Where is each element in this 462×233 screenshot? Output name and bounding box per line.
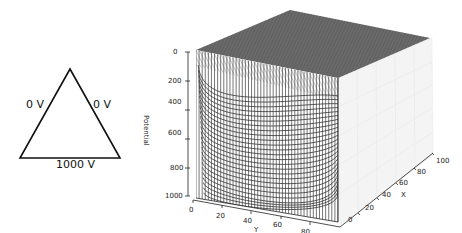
z-axis xyxy=(185,52,190,196)
x-tick: 60 xyxy=(399,179,408,187)
y-tick: 0 xyxy=(189,206,193,214)
y-tick: 40 xyxy=(243,217,252,225)
right-side-label: 0 V xyxy=(93,98,111,111)
z-tick: 600 xyxy=(168,129,181,137)
x-tick: 20 xyxy=(365,204,374,212)
x-tick: 80 xyxy=(417,168,426,176)
y-tick: 20 xyxy=(216,212,225,220)
figure-svg xyxy=(0,0,462,233)
left-side-label: 0 V xyxy=(26,98,44,111)
z-tick: 200 xyxy=(168,77,181,85)
x-tick: 0 xyxy=(348,216,352,224)
z-tick: 400 xyxy=(168,98,181,106)
x-tick: 40 xyxy=(382,191,391,199)
y-tick: 60 xyxy=(273,221,282,229)
surface-front-wall xyxy=(196,50,338,222)
x-axis-label: X xyxy=(401,191,406,199)
z-axis-label: Potential xyxy=(142,115,150,146)
bottom-side-label: 1000 V xyxy=(56,158,95,171)
y-tick: 80 xyxy=(301,228,310,233)
figure: 0 V 0 V 1000 V 0 200 400 600 800 1000 Po… xyxy=(0,0,462,233)
triangle-diagram xyxy=(20,69,120,158)
z-tick: 0 xyxy=(173,48,177,56)
x-tick: 100 xyxy=(436,157,449,165)
y-axis-label: Y xyxy=(254,226,258,233)
z-tick: 1000 xyxy=(165,192,183,200)
z-tick: 800 xyxy=(170,164,183,172)
